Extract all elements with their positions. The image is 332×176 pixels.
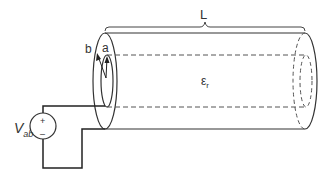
outer-back-visible-arc: [305, 33, 317, 129]
source-label: Vab: [14, 122, 33, 140]
radius-b-label: b: [85, 43, 92, 55]
coax-diagram: [0, 0, 332, 176]
minus-sign: –: [40, 128, 45, 140]
length-brace: [105, 22, 305, 31]
plus-sign: +: [40, 115, 45, 127]
permittivity-label: εr: [201, 75, 209, 92]
radius-a-label: a: [102, 42, 109, 54]
length-label: L: [200, 9, 207, 21]
inner-back-ellipse: [300, 55, 312, 107]
radius-b-arrowhead: [96, 53, 101, 61]
permittivity-subscript: r: [206, 81, 209, 90]
outer-back-hidden-arc: [293, 33, 305, 129]
source-subscript: ab: [23, 129, 33, 139]
source-symbol: V: [14, 120, 23, 136]
